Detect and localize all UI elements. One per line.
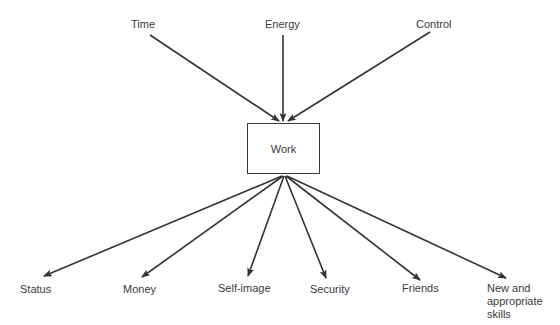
work-diagram: Time Energy Control Work Status Money Se… xyxy=(0,0,560,325)
output-label-friends: Friends xyxy=(402,282,439,295)
work-box: Work xyxy=(247,123,320,174)
input-label-energy: Energy xyxy=(265,18,300,31)
arrow-control-to-work xyxy=(288,32,430,121)
arrow-work-to-self-image xyxy=(248,176,284,276)
output-label-security: Security xyxy=(310,283,350,296)
input-label-control: Control xyxy=(416,18,451,31)
output-label-new-skills: New and appropriate skills xyxy=(487,282,543,321)
output-label-self-image: Self-image xyxy=(218,282,271,295)
arrow-time-to-work xyxy=(150,35,279,121)
work-label: Work xyxy=(271,143,296,155)
output-label-status: Status xyxy=(20,283,51,296)
output-label-money: Money xyxy=(123,283,156,296)
input-label-time: Time xyxy=(131,18,155,31)
